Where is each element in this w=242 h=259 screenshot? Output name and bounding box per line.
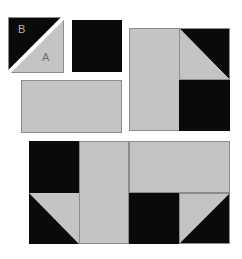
light-rectangle — [21, 80, 122, 133]
dark-square — [72, 20, 122, 72]
assembled-block-bottom — [29, 141, 230, 244]
assembled-block-top — [129, 28, 230, 131]
light-rectangle-vertical — [129, 28, 180, 131]
dark-square-top-left — [29, 141, 79, 193]
light-rectangle-vertical — [79, 141, 129, 244]
hst-dark-bottom-left — [29, 193, 79, 244]
label-b: B — [18, 23, 25, 35]
label-a: A — [42, 51, 49, 63]
dark-square-bottom-middle — [129, 193, 179, 244]
dark-square — [179, 80, 230, 131]
hst-dark-top-right — [179, 28, 230, 80]
light-rectangle-horizontal — [129, 141, 230, 193]
hst-diagram — [8, 17, 64, 73]
hst-unit-labeled: B A — [8, 17, 64, 73]
hst-dark-bottom-right — [179, 193, 230, 244]
